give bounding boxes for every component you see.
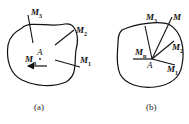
- label-mn-b: Mn: [135, 48, 146, 59]
- label-m3-b: M3: [146, 13, 157, 24]
- point-b-label: A: [147, 61, 153, 70]
- moment-m2-a: [55, 30, 74, 45]
- moment-m2-b: [152, 41, 174, 59]
- label-m3-a: M3: [31, 8, 42, 19]
- moment-m1-a: [55, 60, 80, 67]
- moment-m3-a: [28, 15, 33, 43]
- label-m2-b: M2: [172, 43, 183, 54]
- point-a-label: A: [37, 48, 43, 57]
- label-m1-b: M1: [167, 65, 178, 76]
- label-m-b: M: [173, 13, 181, 22]
- label-m1-a: M1: [80, 56, 91, 67]
- label-mn-a: Mn: [25, 55, 36, 66]
- body-outline-b: [117, 23, 183, 88]
- caption-b: (b): [146, 103, 157, 112]
- point-a-dot: [39, 58, 41, 60]
- label-m2-a: M2: [76, 26, 87, 37]
- caption-a: (a): [34, 103, 44, 112]
